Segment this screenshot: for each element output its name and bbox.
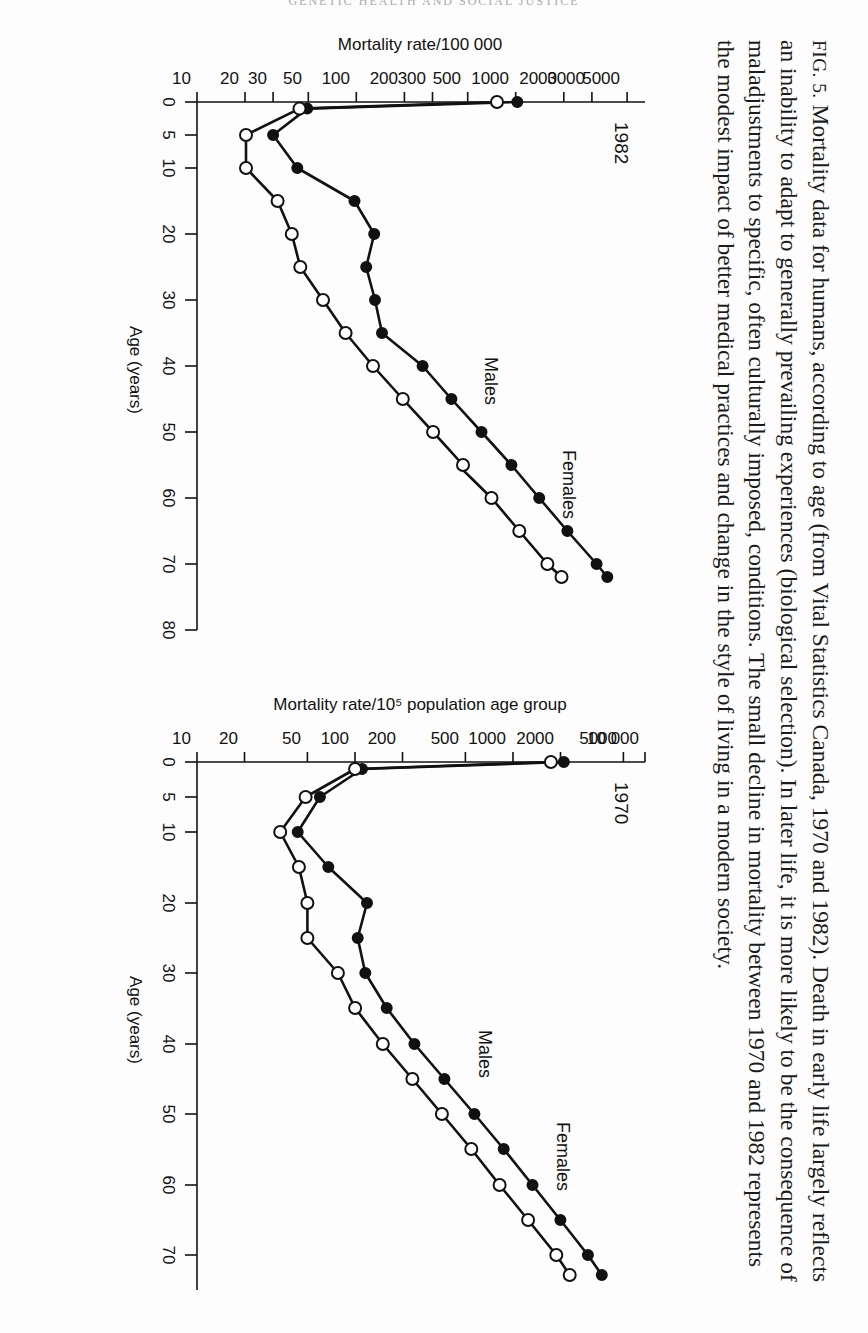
- x-tick-label: 10: [159, 823, 178, 842]
- chart-1970-males-label: Males: [475, 1030, 495, 1078]
- x-tick-label: 20: [159, 894, 178, 913]
- x-tick-label: 60: [159, 489, 178, 508]
- chart-1982-series-females: Females: [240, 96, 579, 583]
- chart-1982-year-label: 1982: [611, 122, 632, 164]
- chart-1970: 10 20 50 100 200 500 1000 2000 5000 10 0…: [115, 670, 675, 1330]
- y-tick-label: 10 000: [587, 729, 639, 748]
- chart-1970-series-males: Males: [293, 757, 607, 1280]
- y-tick-label: 200: [370, 69, 398, 88]
- figure-caption: FIG. 5. Mortality data for humans, accor…: [686, 40, 860, 1295]
- figure-caption-text: FIG. 5. Mortality data for humans, accor…: [710, 40, 837, 1295]
- x-tick-label: 10: [159, 159, 178, 178]
- chart-1982-y-axis-label: Mortality rate/100 000: [338, 35, 502, 54]
- chart-1970-x-axis: 0 5 10 20 30 40 50 60 70 Age (years): [126, 757, 197, 1290]
- x-tick-label: 70: [159, 555, 178, 574]
- y-tick-label: 10: [172, 69, 191, 88]
- y-tick-label: 1000: [471, 69, 509, 88]
- y-tick-label: 5000: [582, 69, 620, 88]
- x-tick-label: 5: [159, 130, 178, 139]
- chart-1982: 10 20 30 50 100 200 300 500 1000 2000 30…: [115, 10, 675, 670]
- x-tick-label: 60: [159, 1176, 178, 1195]
- y-tick-label: 30: [248, 69, 267, 88]
- y-tick-label: 100: [321, 729, 349, 748]
- figure-caption-body: Mortality data for humans, according to …: [713, 40, 835, 1282]
- x-tick-label: 50: [159, 1105, 178, 1124]
- x-tick-label: 30: [159, 964, 178, 983]
- y-tick-label: 20: [220, 69, 239, 88]
- y-tick-label: 100: [322, 69, 350, 88]
- running-head: GENETIC HEALTH AND SOCIAL JUSTICE: [0, 0, 868, 8]
- y-tick-label: 2000: [516, 729, 554, 748]
- chart-1982-x-axis-label: Age (years): [126, 326, 145, 414]
- y-tick-label: 1000: [468, 729, 506, 748]
- x-tick-label: 70: [159, 1246, 178, 1265]
- chart-1982-y-axis: 10 20 30 50 100 200 300 500 1000 2000 30…: [172, 35, 645, 102]
- y-tick-label: 20: [219, 729, 238, 748]
- x-tick-label: 0: [159, 97, 178, 106]
- y-tick-label: 50: [282, 729, 301, 748]
- y-tick-label: 50: [283, 69, 302, 88]
- y-tick-label: 500: [431, 729, 459, 748]
- running-head-text: GENETIC HEALTH AND SOCIAL JUSTICE: [0, 0, 868, 8]
- x-tick-label: 30: [159, 291, 178, 310]
- chart-1970-series-females: Females: [274, 756, 576, 1281]
- x-tick-label: 20: [159, 225, 178, 244]
- chart-1982-males-label: Males: [481, 357, 501, 405]
- x-tick-label: 40: [159, 1035, 178, 1054]
- x-tick-label: 50: [159, 423, 178, 442]
- y-tick-label: 500: [433, 69, 461, 88]
- chart-1970-y-axis: 10 20 50 100 200 500 1000 2000 5000 10 0…: [172, 695, 645, 762]
- x-tick-label: 80: [159, 621, 178, 640]
- figure-page: GENETIC HEALTH AND SOCIAL JUSTICE: [0, 0, 868, 1333]
- y-tick-label: 10: [172, 729, 191, 748]
- chart-1982-females-label: Females: [559, 450, 579, 519]
- x-tick-label: 0: [159, 757, 178, 766]
- y-tick-label: 3000: [547, 69, 585, 88]
- y-tick-label: 300: [398, 69, 426, 88]
- chart-1970-svg: 10 20 50 100 200 500 1000 2000 5000 10 0…: [115, 670, 675, 1330]
- x-tick-label: 40: [159, 357, 178, 376]
- chart-1970-y-axis-label: Mortality rate/10⁵ population age group: [273, 695, 566, 714]
- y-tick-label: 200: [368, 729, 396, 748]
- x-tick-label: 5: [159, 792, 178, 801]
- figure-caption-label: FIG. 5.: [810, 40, 831, 99]
- chart-1970-x-axis-label: Age (years): [126, 976, 145, 1064]
- chart-1970-females-label: Females: [553, 1122, 573, 1191]
- chart-1982-x-axis: 0 5 10 20 30 40 50 60 70 80 Age (years): [126, 97, 197, 639]
- chart-1982-svg: 10 20 30 50 100 200 300 500 1000 2000 30…: [115, 10, 675, 670]
- chart-1970-year-label: 1970: [611, 782, 632, 824]
